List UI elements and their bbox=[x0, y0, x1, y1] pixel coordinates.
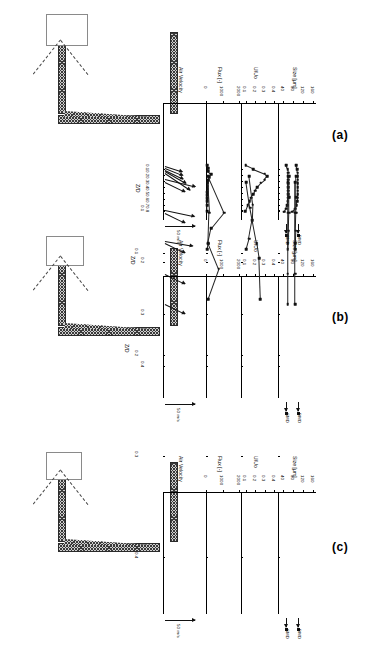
chart-ordinate-tick bbox=[241, 366, 243, 367]
chart-x-tick bbox=[239, 490, 240, 492]
panel-tag-b: (b) bbox=[332, 310, 349, 324]
chart-x-tick-label: 0.2 bbox=[252, 259, 257, 265]
data-point bbox=[256, 186, 259, 189]
chart-x-tick-label: 0.1 bbox=[242, 475, 247, 481]
legend-marker-label-dmd: DMD bbox=[297, 413, 302, 423]
data-point-dmd bbox=[296, 200, 299, 203]
chart-x-tick bbox=[255, 274, 256, 276]
chart-ordinate-tick bbox=[206, 253, 208, 254]
legend-marker-smd bbox=[286, 402, 287, 411]
chart-x-tick-label: 40 bbox=[280, 86, 285, 91]
chart-ordinate-tick bbox=[278, 193, 280, 194]
chart-x-tick bbox=[283, 490, 284, 492]
data-line-segment bbox=[287, 274, 288, 304]
chart-x-tick bbox=[206, 101, 207, 103]
data-point bbox=[207, 298, 210, 301]
ordinate-tick-label: 0.1 bbox=[140, 205, 145, 211]
schematic-diagram bbox=[30, 14, 180, 134]
chart-x-tick-label: 1000 bbox=[219, 86, 224, 96]
data-point bbox=[259, 298, 262, 301]
chart-x-tick bbox=[255, 490, 256, 492]
data-point-dmd bbox=[294, 303, 297, 306]
chart-x-tick bbox=[206, 274, 207, 276]
chart-ordinate-tick bbox=[206, 557, 208, 558]
chart-x-tick bbox=[283, 101, 284, 103]
chart-baseline bbox=[278, 103, 279, 220]
data-point bbox=[252, 204, 255, 207]
data-point-dmd bbox=[296, 179, 299, 182]
schematic-diagram bbox=[30, 452, 180, 562]
velocity-scale-label: 50 m/s bbox=[176, 408, 181, 422]
velocity-scale-bar bbox=[165, 620, 195, 621]
chart-x-tick-label: 0.1 bbox=[242, 86, 247, 92]
data-point bbox=[260, 182, 263, 185]
chart-x-tick bbox=[293, 490, 294, 492]
chart-ordinate-tick bbox=[241, 187, 243, 188]
chart-ordinate-tick bbox=[163, 456, 165, 457]
legend-marker-dmd bbox=[298, 402, 299, 411]
chart-ordinate-tick bbox=[241, 314, 243, 315]
chart-ordinate-tick bbox=[241, 193, 243, 194]
chart-ordinate-tick bbox=[206, 355, 208, 356]
chart-ordinate-tick bbox=[241, 210, 243, 211]
panel-tag-c: (c) bbox=[332, 540, 348, 554]
data-point-dmd bbox=[294, 181, 297, 184]
data-point-dmd bbox=[296, 186, 299, 189]
chart-ordinate-tick bbox=[278, 557, 280, 558]
chart-x-tick-label: 2000 bbox=[236, 259, 241, 269]
chart-top-axis bbox=[163, 103, 316, 104]
chart-x-tick-label: 160 bbox=[310, 475, 315, 483]
data-point bbox=[207, 181, 210, 184]
chart-ordinate-tick bbox=[278, 187, 280, 188]
chart-ordinate-tick bbox=[163, 262, 165, 263]
data-point bbox=[210, 227, 213, 230]
chart-x-tick-label: 1000 bbox=[219, 475, 224, 485]
chart-baseline bbox=[206, 276, 207, 398]
chart-x-tick-label: 80 bbox=[290, 86, 295, 91]
chart-ordinate-tick bbox=[241, 169, 243, 170]
data-point bbox=[244, 210, 247, 213]
data-point-smd bbox=[286, 303, 289, 306]
chart-ordinate-tick bbox=[206, 456, 208, 457]
chart-ordinate-tick bbox=[163, 366, 165, 367]
nozzle-housing bbox=[46, 14, 88, 46]
chart-title: Flux [-] bbox=[217, 67, 223, 83]
chart-x-tick bbox=[246, 274, 247, 276]
data-point bbox=[244, 164, 247, 167]
data-point-dmd bbox=[295, 175, 298, 178]
chart-ordinate-tick bbox=[241, 557, 243, 558]
chart-ordinate-tick bbox=[206, 314, 208, 315]
chart-ordinate-tick bbox=[278, 456, 280, 457]
chart-x-tick-label: 80 bbox=[290, 475, 295, 480]
data-point-dmd bbox=[296, 171, 299, 174]
chart-x-tick-label: 0 bbox=[203, 475, 208, 478]
chart-x-tick-label: 0.4 bbox=[271, 86, 276, 92]
chart-ordinate-tick bbox=[241, 355, 243, 356]
chart-x-tick bbox=[265, 274, 266, 276]
chart-x-tick bbox=[223, 490, 224, 492]
chart-baseline bbox=[278, 492, 279, 614]
chart-baseline bbox=[206, 492, 207, 614]
chart-x-tick bbox=[293, 101, 294, 103]
chart-ordinate-tick bbox=[278, 211, 280, 212]
chart-x-tick-label: 0.3 bbox=[261, 475, 266, 481]
legend-marker-smd bbox=[286, 618, 287, 627]
data-point bbox=[248, 175, 251, 178]
data-point-smd bbox=[287, 171, 290, 174]
data-point-dmd bbox=[296, 189, 299, 192]
chart-x-tick-label: 160 bbox=[310, 86, 315, 94]
chart-baseline bbox=[241, 492, 242, 614]
chart-ordinate-tick bbox=[278, 199, 280, 200]
chart-x-tick bbox=[303, 101, 304, 103]
chart-x-tick bbox=[239, 274, 240, 276]
chart-x-tick bbox=[303, 490, 304, 492]
chart-x-tick-label: 40 bbox=[280, 259, 285, 264]
legend-marker-label-smd: SMD bbox=[285, 629, 290, 639]
schematic-diagram bbox=[30, 236, 180, 346]
chart-baseline bbox=[163, 276, 164, 398]
ordinate-tick-label: 0.2 bbox=[140, 257, 145, 263]
data-point-smd bbox=[283, 210, 286, 213]
chart-baseline bbox=[241, 103, 242, 220]
wall-vertical-leg bbox=[58, 38, 66, 114]
chart-title: Flux [-] bbox=[217, 456, 223, 472]
